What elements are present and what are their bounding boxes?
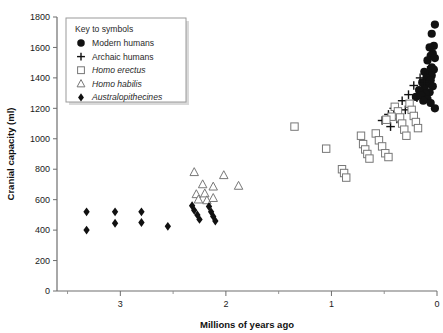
legend-marker-open-square: [78, 67, 85, 74]
data-point: [234, 181, 242, 189]
legend-label-homo-habilis: Homo habilis: [92, 79, 142, 89]
data-point: [428, 30, 436, 38]
y-tick-label: 0: [45, 286, 50, 296]
x-axis-title: Millions of years ago: [200, 319, 294, 330]
series-homo-habilis: [190, 168, 243, 204]
scatter-plot: 0200400600800100012001400160018003210Mil…: [0, 0, 443, 333]
data-point: [414, 124, 421, 131]
data-point: [385, 153, 392, 160]
data-point: [190, 168, 198, 176]
data-point: [322, 145, 329, 152]
data-point: [403, 132, 410, 139]
y-tick-label: 1800: [30, 12, 50, 22]
data-point: [372, 130, 379, 137]
y-tick-label: 400: [35, 225, 50, 235]
data-point: [431, 104, 439, 112]
data-point: [343, 174, 350, 181]
data-point: [83, 207, 89, 216]
data-point: [291, 123, 298, 130]
y-tick-label: 600: [35, 195, 50, 205]
data-point: [366, 155, 373, 162]
data-point: [201, 189, 209, 197]
data-point: [431, 21, 439, 29]
y-axis-title: Cranial capacity (ml): [5, 108, 16, 201]
data-point: [209, 182, 217, 190]
x-tick-label: 0: [434, 299, 439, 309]
legend: Key to symbolsModern humansArchaic human…: [66, 18, 189, 105]
data-point: [165, 222, 171, 231]
data-point: [112, 207, 118, 216]
y-tick-label: 800: [35, 164, 50, 174]
data-point: [398, 96, 407, 105]
data-point: [220, 171, 228, 179]
legend-label-modern-humans: Modern humans: [92, 38, 154, 48]
series-modern-humans: [412, 21, 439, 113]
data-point: [198, 180, 206, 188]
data-point: [138, 218, 144, 227]
data-point: [138, 207, 144, 216]
y-tick-label: 200: [35, 256, 50, 266]
data-point: [378, 143, 385, 150]
data-point: [112, 219, 118, 228]
data-point: [431, 54, 439, 62]
series-homo-erectus: [291, 100, 422, 181]
chart-figure: 0200400600800100012001400160018003210Mil…: [0, 0, 443, 333]
legend-label-homo-erectus: Homo erectus: [92, 65, 146, 75]
data-point: [383, 116, 390, 123]
y-tick-label: 1600: [30, 43, 50, 53]
legend-marker-filled-circle: [77, 39, 85, 47]
legend-title: Key to symbols: [75, 24, 133, 34]
legend-label-australopithecines: Australopithecines: [91, 92, 163, 102]
y-tick-label: 1200: [30, 104, 50, 114]
x-tick-label: 2: [223, 299, 228, 309]
data-point: [357, 132, 364, 139]
data-point: [83, 226, 89, 235]
data-point: [404, 90, 413, 99]
legend-label-archaic-humans: Archaic humans: [92, 52, 154, 62]
x-tick-label: 1: [329, 299, 334, 309]
x-tick-label: 3: [118, 299, 123, 309]
y-tick-label: 1000: [30, 134, 50, 144]
data-point: [423, 56, 431, 64]
data-point: [209, 194, 217, 202]
y-tick-label: 1400: [30, 73, 50, 83]
series-australopithecines: [83, 201, 218, 234]
